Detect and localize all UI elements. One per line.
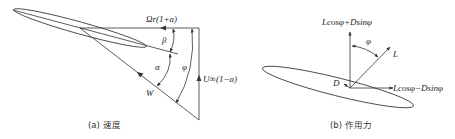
label-normal-force: Lcosφ+Dsinφ xyxy=(321,17,372,27)
label-twist-angle: β xyxy=(161,35,167,45)
label-angle-of-attack: α xyxy=(155,62,160,72)
drag-vector xyxy=(344,84,350,88)
label-rotational-velocity: Ωr(1+a) xyxy=(146,14,177,24)
label-axial-velocity: U∞(1−a) xyxy=(203,74,237,84)
blade-element-diagram: Ωr(1+a) U∞(1−a) W β α φ (a) 速度 Lcosφ+Dsi… xyxy=(0,0,455,139)
panel-b-forces: Lcosφ+Dsinφ L Lcosφ−Dsinφ D φ (b) 作用力 xyxy=(260,17,443,130)
rotational-velocity-arrowhead xyxy=(160,26,166,31)
twist-angle-arc xyxy=(170,29,174,52)
caption-b: (b) 作用力 xyxy=(330,120,372,130)
lift-vector xyxy=(350,47,390,88)
label-inflow-angle-b: φ xyxy=(366,36,371,46)
axial-velocity-arrowhead xyxy=(197,75,202,81)
label-tangential-force: Lcosφ−Dsinφ xyxy=(392,83,443,93)
panel-a-velocity: Ωr(1+a) U∞(1−a) W β α φ (a) 速度 xyxy=(12,4,237,130)
label-drag: D xyxy=(332,78,340,88)
label-relative-velocity: W xyxy=(146,88,155,98)
label-inflow-angle: φ xyxy=(182,62,187,72)
inflow-angle-arc-b xyxy=(352,46,378,57)
label-lift: L xyxy=(392,49,398,59)
caption-a: (a) 速度 xyxy=(88,120,121,130)
